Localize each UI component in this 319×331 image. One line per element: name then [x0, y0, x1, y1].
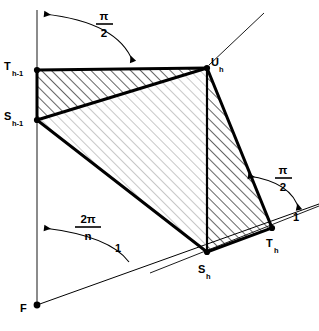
label-T-h-minus-1-main: T: [4, 60, 11, 72]
label-U-h-main: U: [211, 56, 219, 68]
angle-label-right-numerator: π: [279, 164, 288, 176]
label-T-h-main: T: [266, 237, 273, 249]
label-S-h-main: S: [198, 263, 205, 275]
label-T-h: T h: [266, 237, 279, 255]
angle-label-top-numerator: π: [100, 10, 109, 22]
vertex-dot-F: [34, 302, 41, 309]
vertex-dot-T-h: [269, 225, 275, 231]
label-S-h-sub: h: [206, 272, 211, 281]
label-S-h: S h: [198, 263, 211, 281]
angle-label-central-denominator: n: [84, 230, 91, 242]
figure-canvas: T h-1 S h-1 U h S h T h F π 2: [0, 0, 319, 331]
vertex-dot-S-h: [204, 249, 210, 255]
vertex-dot-S-hm1: [34, 117, 40, 123]
label-T-h-sub: h: [274, 246, 279, 255]
angle-label-right-right-angle: π 2: [275, 164, 292, 193]
label-S-h-minus-1-sub: h-1: [12, 119, 23, 128]
label-S-h-minus-1: S h-1: [4, 110, 23, 128]
label-U-h-sub: h: [219, 65, 224, 74]
label-F: F: [20, 302, 27, 314]
vertex-dot-U-h: [204, 65, 210, 71]
angle-label-top-denominator: 2: [101, 27, 107, 39]
unit-label-bottom: 1: [115, 242, 121, 254]
arc-top-right-angle: [44, 14, 133, 62]
label-U-h: U h: [211, 56, 224, 74]
label-T-h-minus-1: T h-1: [4, 60, 23, 78]
angle-label-central-angle: 2π n: [75, 213, 101, 242]
geometry-figure: T h-1 S h-1 U h S h T h F π 2: [0, 0, 319, 331]
angle-label-central-numerator: 2π: [80, 213, 95, 225]
unit-label-right: 1: [293, 211, 299, 223]
label-T-h-minus-1-sub: h-1: [12, 69, 23, 78]
angle-label-right-denominator: 2: [280, 181, 286, 193]
label-S-h-minus-1-main: S: [4, 110, 11, 122]
vertex-dot-T-hm1: [34, 67, 40, 73]
